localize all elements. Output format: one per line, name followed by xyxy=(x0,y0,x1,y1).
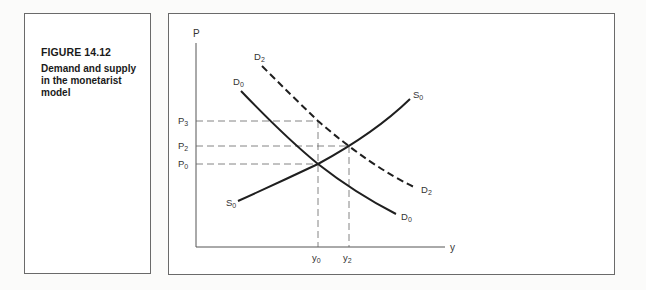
label-s0-low: S0 xyxy=(226,197,236,209)
label-d2-end: D2 xyxy=(421,184,432,196)
tick-label-p2: P2 xyxy=(178,140,188,152)
label-s0-top: S0 xyxy=(413,89,423,101)
label-d0-top: D0 xyxy=(233,76,244,88)
label-d2-top: D2 xyxy=(254,51,265,63)
tick-label-y2: y2 xyxy=(343,252,352,264)
supply-demand-chart: P y P3 P2 P0 y0 y2 D0 D2 S0 S0 D2 D0 xyxy=(0,0,646,290)
label-d0-end: D0 xyxy=(401,211,412,223)
curve-d2 xyxy=(262,66,416,188)
guide-lines xyxy=(196,121,349,247)
tick-label-p0: P0 xyxy=(178,158,188,170)
axis-label-y: y xyxy=(450,242,455,253)
tick-label-p3: P3 xyxy=(178,115,188,127)
axis-label-p: P xyxy=(193,28,200,39)
tick-label-y0: y0 xyxy=(312,252,321,264)
curve-d0 xyxy=(241,91,396,214)
